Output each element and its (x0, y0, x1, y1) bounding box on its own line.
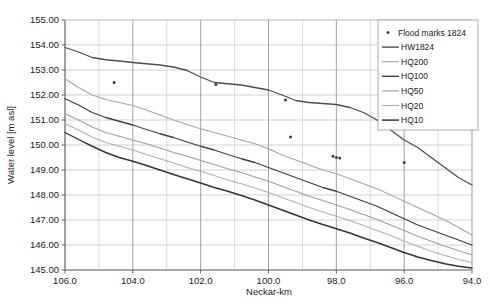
x-tick-label: 102.0 (189, 275, 213, 286)
y-tick-label: 155.00 (30, 14, 59, 25)
x-tick-label: 100.0 (257, 275, 281, 286)
chart-legend: Flood marks 1824HW1824HQ200HQ100HQ50HQ20… (378, 20, 478, 130)
legend-label: Flood marks 1824 (398, 28, 466, 38)
flood-mark-point (289, 136, 292, 139)
legend-label: HQ50 (401, 86, 423, 96)
y-tick-label: 151.00 (30, 114, 59, 125)
y-tick-label: 146.00 (30, 239, 59, 250)
flood-mark-point (214, 83, 217, 86)
water-level-longitudinal-profile-chart: 106.0104.0102.0100.098.096.094.0 145.001… (0, 0, 490, 307)
y-tick-label: 154.00 (30, 39, 59, 50)
y-tick-label: 148.00 (30, 189, 59, 200)
legend-item-flood-marks-1824[interactable]: Flood marks 1824 (387, 28, 467, 38)
flood-mark-point (113, 81, 116, 84)
y-tick-label: 152.00 (30, 89, 59, 100)
flood-mark-point (403, 161, 406, 164)
x-tick-label: 106.0 (53, 275, 77, 286)
x-axis-title: Neckar-km (246, 286, 292, 297)
legend-label: HQ20 (401, 101, 423, 111)
y-axis-tick-labels: 145.00146.00147.00148.00149.00150.00151.… (30, 14, 59, 275)
x-tick-label: 98.0 (327, 275, 346, 286)
legend-marker-dot-icon (387, 31, 390, 34)
chart-container: 106.0104.0102.0100.098.096.094.0 145.001… (0, 0, 490, 307)
x-tick-label: 96.0 (395, 275, 414, 286)
flood-mark-point (335, 156, 338, 159)
x-tick-label: 104.0 (121, 275, 145, 286)
y-tick-label: 149.00 (30, 164, 59, 175)
y-tick-label: 153.00 (30, 64, 59, 75)
y-tick-label: 147.00 (30, 214, 59, 225)
flood-marks-scatter (113, 81, 406, 164)
flood-mark-point (338, 157, 341, 160)
y-axis-title: Water level [m asl] (5, 106, 16, 184)
legend-label: HQ100 (401, 71, 428, 81)
x-axis-tick-labels: 106.0104.0102.0100.098.096.094.0 (53, 275, 481, 286)
x-tick-label: 94.0 (463, 275, 482, 286)
flood-mark-point (284, 99, 287, 102)
y-tick-label: 150.00 (30, 139, 59, 150)
y-tick-label: 145.00 (30, 264, 59, 275)
legend-label: HQ200 (401, 57, 428, 67)
legend-label: HQ10 (401, 115, 423, 125)
legend-label: HW1824 (401, 42, 434, 52)
flood-mark-point (331, 155, 334, 158)
